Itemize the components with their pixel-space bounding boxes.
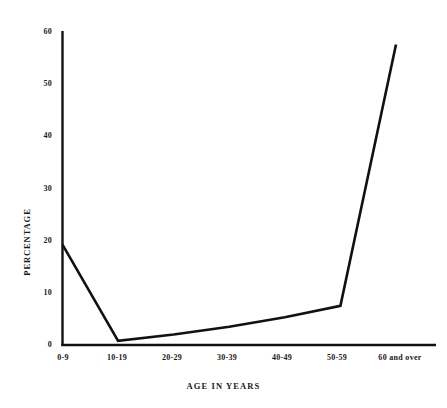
plot-area	[0, 0, 447, 408]
chart-container: PERCENTAGE 60 50 40 30 20 10 0 0-9 10-19…	[0, 0, 447, 408]
data-series-line	[63, 45, 397, 341]
